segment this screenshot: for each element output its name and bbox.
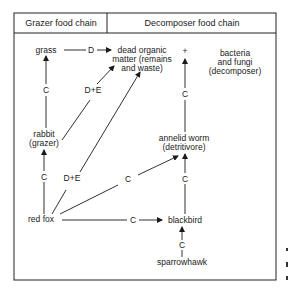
svg-text:(detritivore): (detritivore) — [163, 142, 206, 152]
node-rabbit: rabbit (grazer) — [29, 129, 59, 148]
edge-rabbit-dom-b — [97, 66, 114, 84]
food-web-diagram: Grazer food chain Decomposer food chain … — [0, 0, 290, 288]
node-blackbird: blackbird — [168, 215, 202, 225]
node-bacteria-fungi: bacteria and fungi (decomposer) — [209, 48, 262, 76]
scan-mark — [286, 262, 288, 267]
node-grass: grass — [36, 45, 57, 55]
edge-label-fox-dom: D+E — [64, 173, 81, 183]
edge-label-hawk-blackbird: C — [179, 240, 185, 250]
edge-fox-worm-b — [138, 156, 178, 175]
edge-fox-dom-a — [52, 190, 66, 214]
node-red-fox: red fox — [28, 214, 55, 224]
edge-label-fox-worm: C — [125, 174, 131, 184]
node-annelid-worm: annelid worm (detritivore) — [159, 133, 210, 152]
edge-label-rabbit-dom: D+E — [85, 85, 102, 95]
edge-label-blackbird-worm: C — [182, 174, 188, 184]
header-grazer: Grazer food chain — [25, 18, 97, 28]
scan-mark — [286, 276, 288, 280]
edge-rabbit-dom-a — [62, 100, 90, 140]
svg-text:and waste): and waste) — [121, 63, 163, 73]
svg-text:(grazer): (grazer) — [29, 138, 59, 148]
edge-label-worm-bact: C — [182, 89, 188, 99]
node-sparrowhawk: sparrowhawk — [157, 257, 208, 267]
edge-label-fox-blackbird: C — [130, 215, 136, 225]
header-decomposer: Decomposer food chain — [144, 18, 239, 28]
node-dead-organic-matter: dead organic matter (remains and waste) — [112, 45, 172, 73]
edge-label-grass-dom: D — [88, 45, 94, 55]
svg-text:(decomposer): (decomposer) — [209, 66, 262, 76]
edge-label-plus: + — [183, 46, 188, 56]
edge-fox-worm-a — [60, 185, 118, 214]
edge-label-rabbit-grass: C — [43, 85, 49, 95]
scan-mark — [286, 248, 288, 251]
edge-label-fox-rabbit: C — [41, 172, 47, 182]
